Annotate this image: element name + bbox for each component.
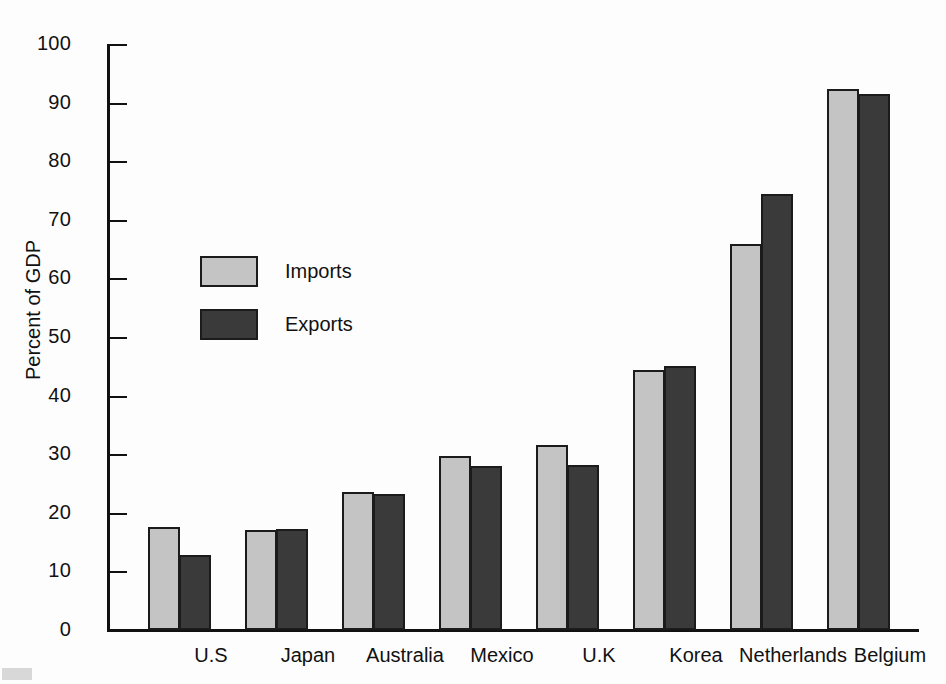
bar-exports-us <box>179 555 211 630</box>
bar-imports-japan <box>245 530 277 630</box>
y-tick-50: 50 <box>0 337 127 339</box>
bar-exports-japan <box>276 529 308 630</box>
bar-exports-australia <box>373 494 405 630</box>
bar-group: Netherlands <box>730 44 793 630</box>
bar-group: Australia <box>342 44 405 630</box>
y-tick-label: 60 <box>29 267 71 287</box>
bar-exports-mexico <box>470 466 502 630</box>
bar-imports-australia <box>342 492 374 630</box>
legend-swatch-imports <box>200 256 258 287</box>
bar-exports-netherlands <box>761 194 793 630</box>
y-tick-label: 100 <box>29 33 71 53</box>
bar-chart: Percent of GDP 0102030405060708090100 U.… <box>0 0 946 684</box>
x-axis-label-belgium: Belgium <box>800 644 946 666</box>
y-tick-100: 100 <box>0 44 127 46</box>
y-axis-title: Percent of GDP <box>23 225 43 395</box>
bar-imports-korea <box>633 370 665 630</box>
y-tick-label: 0 <box>29 619 71 639</box>
legend-label-imports: Imports <box>285 259 352 283</box>
page-scan-artifact <box>2 668 32 680</box>
bar-imports-uk <box>536 445 568 630</box>
bar-imports-belgium <box>827 89 859 630</box>
y-tick-80: 80 <box>0 161 127 163</box>
bar-imports-mexico <box>439 456 471 630</box>
bar-group: Mexico <box>439 44 502 630</box>
y-tick-label: 10 <box>29 560 71 580</box>
bar-imports-netherlands <box>730 244 762 630</box>
bar-exports-belgium <box>858 94 890 630</box>
bar-group: Korea <box>633 44 696 630</box>
y-tick-label: 70 <box>29 209 71 229</box>
bar-imports-us <box>148 527 180 630</box>
y-tick-label: 30 <box>29 443 71 463</box>
y-tick-label: 50 <box>29 326 71 346</box>
y-tick-label: 90 <box>29 92 71 112</box>
y-tick-40: 40 <box>0 396 127 398</box>
y-tick-70: 70 <box>0 220 127 222</box>
bar-group: Belgium <box>827 44 890 630</box>
bar-group: U.K <box>536 44 599 630</box>
bar-exports-uk <box>567 465 599 630</box>
y-tick-90: 90 <box>0 103 127 105</box>
y-tick-60: 60 <box>0 278 127 280</box>
y-tick-mark <box>110 630 127 632</box>
y-tick-0: 0 <box>0 630 127 632</box>
y-tick-20: 20 <box>0 513 127 515</box>
legend-label-exports: Exports <box>285 312 353 336</box>
y-tick-label: 80 <box>29 150 71 170</box>
legend-swatch-exports <box>200 309 258 340</box>
bar-exports-korea <box>664 366 696 630</box>
y-tick-30: 30 <box>0 454 127 456</box>
y-tick-10: 10 <box>0 571 127 573</box>
y-tick-label: 40 <box>29 385 71 405</box>
y-tick-label: 20 <box>29 502 71 522</box>
